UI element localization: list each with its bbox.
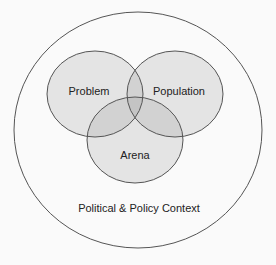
problem-label: Problem [69, 85, 110, 97]
diagram-canvas: Problem Population Arena Political & Pol… [0, 0, 276, 265]
venn-diagram: Problem Population Arena Political & Pol… [0, 0, 276, 265]
population-label: Population [153, 85, 205, 97]
context-label: Political & Policy Context [78, 202, 200, 214]
arena-label: Arena [120, 149, 150, 161]
